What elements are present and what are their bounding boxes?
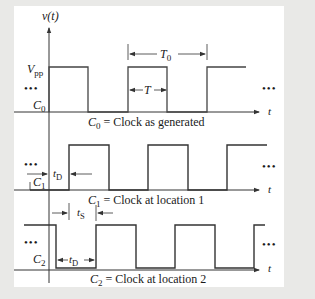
- c0-name: C0: [33, 98, 46, 114]
- period-t0-label: T0: [160, 47, 172, 63]
- c1-ellipsis-right: •••: [262, 160, 277, 172]
- high-time-t-label: T: [144, 83, 152, 97]
- signal-c1: t ••• ••• C1 tD C1 = Clock at location 1: [14, 145, 277, 209]
- c1-t-label: t: [268, 183, 272, 195]
- c0-caption: C0 = Clock as generated: [88, 115, 205, 131]
- c2-waveform: [24, 225, 265, 268]
- c0-ellipsis-left: •••: [24, 82, 39, 94]
- c1-name: C1: [33, 175, 46, 191]
- c1-ellipsis-left: •••: [24, 158, 39, 170]
- c1-caption: C1 = Clock at location 1: [88, 193, 204, 209]
- y-axis-label: v(t): [42, 9, 59, 23]
- c2-ellipsis-right: •••: [262, 238, 277, 250]
- signal-c0: t Vpp ••• ••• C0 C0 = Clock as generated…: [14, 44, 277, 131]
- c2-delay-label: tD: [69, 253, 78, 268]
- c0-t-label: t: [268, 105, 272, 117]
- timing-diagram: v(t) t Vpp ••• ••• C0 C0 = Clock as gene…: [0, 0, 315, 299]
- signal-c2: t ••• ••• C2 tD C2 = Clock at location 2: [14, 225, 277, 288]
- c1-waveform: [30, 145, 267, 190]
- c2-caption: C2 = Clock at location 2: [90, 272, 206, 288]
- skew-ts-label: tS: [77, 206, 85, 221]
- c2-ellipsis-left: •••: [24, 236, 39, 248]
- vpp-label: Vpp: [27, 62, 44, 78]
- c2-name: C2: [33, 252, 46, 268]
- c0-ellipsis-right: •••: [262, 82, 277, 94]
- c1-delay-label: tD: [53, 167, 62, 182]
- c2-t-label: t: [268, 262, 272, 274]
